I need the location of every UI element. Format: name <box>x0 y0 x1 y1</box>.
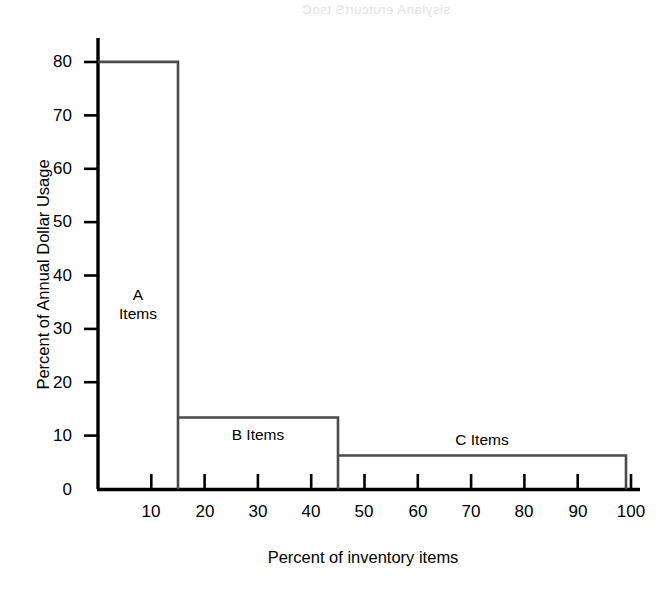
x-tick-label-50: 50 <box>334 503 394 520</box>
y-axis-title: Percent of Annual Dollar Usage <box>34 65 53 485</box>
bar-c-items <box>338 456 626 490</box>
x-tick-label-80: 80 <box>494 503 554 520</box>
bar-label-a-items: A Items <box>98 285 178 323</box>
x-axis-ticks <box>151 474 631 489</box>
x-tick-label-20: 20 <box>175 503 235 520</box>
bar-label-c-items: C Items <box>338 430 626 449</box>
x-tick-label-70: 70 <box>441 503 501 520</box>
x-tick-label-90: 90 <box>548 503 608 520</box>
x-tick-label-10: 10 <box>121 503 181 520</box>
bar-label-b-items: B Items <box>178 425 338 444</box>
x-tick-label-60: 60 <box>388 503 448 520</box>
bar-a-items <box>98 62 178 489</box>
x-tick-label-40: 40 <box>281 503 341 520</box>
x-axis-title: Percent of inventory items <box>98 548 628 567</box>
x-tick-label-100: 100 <box>601 503 661 520</box>
x-tick-label-30: 30 <box>228 503 288 520</box>
abc-analysis-chart: sisylanA erutcurtS tsoC <box>0 0 671 596</box>
y-axis-ticks <box>84 62 98 436</box>
